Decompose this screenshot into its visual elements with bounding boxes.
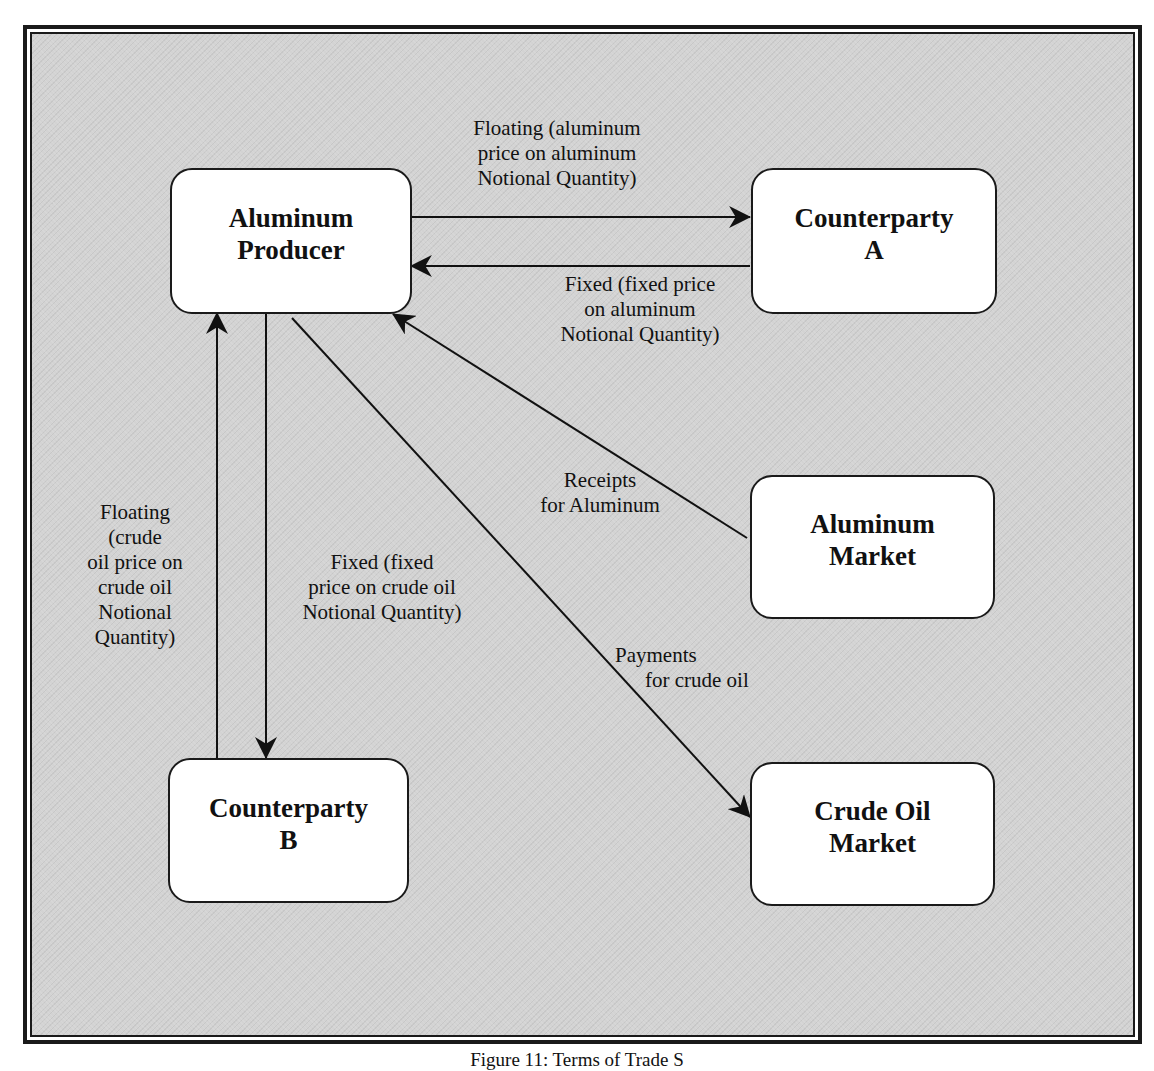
node-label-line2: Market [814, 827, 930, 859]
label-line: Notional Quantity) [282, 600, 482, 625]
node-label-line2: Market [810, 540, 935, 572]
node-label-line1: Aluminum [810, 508, 935, 540]
label-line: oil price on [70, 550, 200, 575]
node-label-line2: A [795, 234, 954, 266]
node-label-line1: Counterparty [209, 792, 368, 824]
edge-label-floating-aluminum: Floating (aluminum price on aluminum Not… [442, 116, 672, 191]
node-aluminum-market: Aluminum Market [750, 475, 995, 619]
label-line: Floating (aluminum [442, 116, 672, 141]
label-line: for crude oil [615, 668, 765, 693]
node-counterparty-b: Counterparty B [168, 758, 409, 903]
label-line: Receipts [520, 468, 680, 493]
label-line: for Aluminum [520, 493, 680, 518]
label-line: Notional Quantity) [525, 322, 755, 347]
label-line: Payments [615, 643, 765, 668]
figure-caption: Figure 11: Terms of Trade S [0, 1049, 1154, 1071]
node-label-line1: Crude Oil [814, 795, 930, 827]
node-crude-oil-market: Crude Oil Market [750, 762, 995, 906]
node-label-line2: B [209, 824, 368, 856]
label-line: crude oil [70, 575, 200, 600]
label-line: Notional [70, 600, 200, 625]
label-line: Floating [70, 500, 200, 525]
label-line: Fixed (fixed price [525, 272, 755, 297]
node-counterparty-a: Counterparty A [751, 168, 997, 314]
node-label-line2: Producer [229, 234, 354, 266]
edge-label-fixed-crude: Fixed (fixed price on crude oil Notional… [282, 550, 482, 625]
edge-label-fixed-aluminum: Fixed (fixed price on aluminum Notional … [525, 272, 755, 347]
node-label-line1: Counterparty [795, 202, 954, 234]
node-aluminum-producer: Aluminum Producer [170, 168, 412, 314]
label-line: price on crude oil [282, 575, 482, 600]
label-line: on aluminum [525, 297, 755, 322]
label-line: Notional Quantity) [442, 166, 672, 191]
label-line: Fixed (fixed [282, 550, 482, 575]
label-line: price on aluminum [442, 141, 672, 166]
edge-label-floating-crude: Floating (crude oil price on crude oil N… [70, 500, 200, 650]
edge-label-payments-crude: Payments for crude oil [615, 643, 765, 693]
label-line: Quantity) [70, 625, 200, 650]
edge-label-receipts-aluminum: Receipts for Aluminum [520, 468, 680, 518]
node-label-line1: Aluminum [229, 202, 354, 234]
label-line: (crude [70, 525, 200, 550]
